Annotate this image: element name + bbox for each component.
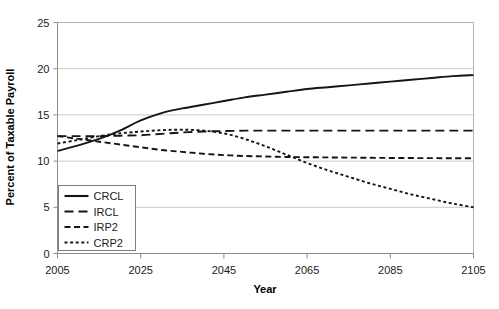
chart-container: 0510152025 200520252045206520852105 CRCL… — [0, 0, 499, 309]
y-axis-ticks: 0510152025 — [37, 17, 57, 260]
y-axis-title: Percent of Taxable Payroll — [4, 69, 16, 206]
x-axis-ticks: 200520252045206520852105 — [45, 254, 485, 276]
series-line-irp2 — [58, 136, 474, 158]
legend-label-ircl[interactable]: IRCL — [94, 206, 119, 218]
x-tick-label: 2105 — [461, 264, 485, 276]
y-tick-label: 25 — [37, 17, 49, 29]
y-tick-label: 5 — [43, 201, 49, 213]
x-tick-label: 2065 — [295, 264, 319, 276]
x-tick-label: 2045 — [212, 264, 236, 276]
x-tick-label: 2005 — [45, 264, 69, 276]
y-tick-label: 15 — [37, 109, 49, 121]
chart-legend[interactable]: CRCLIRCLIRP2CRP2 — [59, 186, 136, 251]
x-tick-label: 2025 — [128, 264, 152, 276]
x-axis-title: Year — [253, 283, 277, 295]
legend-label-irp2[interactable]: IRP2 — [94, 221, 118, 233]
line-chart: 0510152025 200520252045206520852105 CRCL… — [0, 0, 499, 309]
y-tick-label: 10 — [37, 155, 49, 167]
legend-label-crp2[interactable]: CRP2 — [94, 237, 123, 249]
legend-label-crcl[interactable]: CRCL — [94, 190, 124, 202]
series-line-crcl — [58, 75, 474, 151]
x-tick-label: 2085 — [378, 264, 402, 276]
y-tick-label: 20 — [37, 63, 49, 75]
gridlines — [58, 23, 474, 208]
y-tick-label: 0 — [43, 248, 49, 260]
